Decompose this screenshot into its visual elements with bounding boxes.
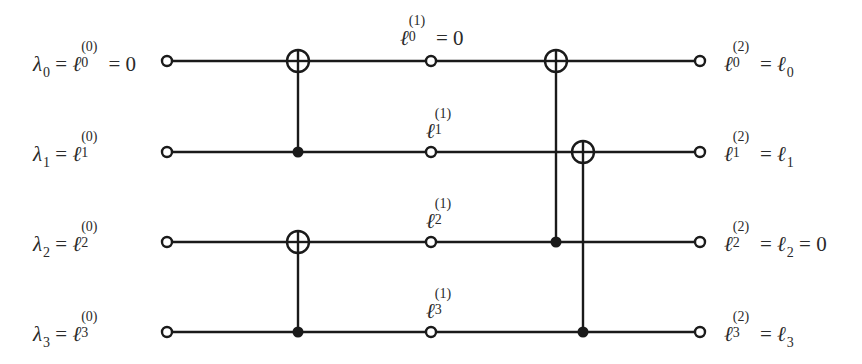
mid-node-icon (426, 237, 436, 247)
control-dot-icon (578, 327, 589, 338)
output-node-icon (695, 56, 705, 66)
input-node-icon (162, 327, 172, 337)
output-label-1: ℓ(2)1 = ℓ1 (724, 140, 794, 165)
output-label-2: ℓ(2)2 = ℓ2 = 0 (724, 230, 827, 255)
output-node-icon (695, 327, 705, 337)
input-label-3: λ3 = ℓ(0)3 (33, 320, 103, 345)
input-label-2: λ2 = ℓ(0)2 (33, 230, 103, 255)
terminals (162, 56, 705, 337)
mid-label-3: ℓ(1)3 (426, 297, 457, 322)
output-label-3: ℓ(2)3 = ℓ3 (724, 320, 794, 345)
wires (167, 61, 700, 332)
input-node-icon (162, 56, 172, 66)
cnot-gate-2 (287, 231, 309, 338)
mid-node-icon (426, 56, 436, 66)
mid-node-icon (426, 327, 436, 337)
mid-node-icon (426, 147, 436, 157)
output-node-icon (695, 237, 705, 247)
mid-label-2: ℓ(1)2 (426, 207, 457, 232)
cnot-gate-1 (287, 50, 309, 158)
input-node-icon (162, 147, 172, 157)
mid-label-0: ℓ(1)0 = 0 (400, 24, 464, 49)
input-label-1: λ1 = ℓ(0)1 (33, 140, 103, 165)
control-dot-icon (293, 327, 304, 338)
output-node-icon (695, 147, 705, 157)
input-node-icon (162, 237, 172, 247)
cnot-gate-3 (545, 50, 567, 248)
input-label-0: λ0 = ℓ(0)0 = 0 (33, 50, 136, 75)
control-dot-icon (551, 237, 562, 248)
output-label-0: ℓ(2)0 = ℓ0 (724, 50, 794, 75)
cnot-gate-4 (572, 141, 594, 338)
mid-label-1: ℓ(1)1 (426, 117, 457, 142)
control-dot-icon (293, 147, 304, 158)
